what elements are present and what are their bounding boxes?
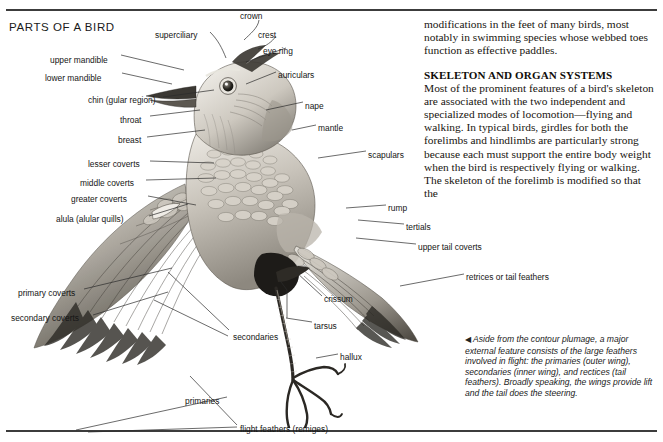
label-greater-coverts: greater coverts (71, 194, 127, 204)
label-middle-coverts: middle coverts (80, 178, 134, 188)
leg-and-foot (276, 288, 345, 428)
top-divider-rule (6, 9, 657, 11)
bottom-divider-rule (6, 430, 657, 432)
label-primaries: primaries (185, 396, 219, 406)
label-retrices: retrices or tail feathers (466, 272, 549, 282)
caption-text: Aside from the contour plumage, a major … (465, 334, 652, 398)
label-crest: crest (258, 30, 276, 40)
label-primary-coverts: primary coverts (18, 288, 75, 298)
label-lesser-coverts: lesser coverts (88, 159, 140, 169)
label-eye-ring: eye ring (263, 46, 293, 56)
label-chin: chin (gular region) (88, 95, 156, 105)
label-tertials: tertials (406, 222, 431, 232)
label-scapulars: scapulars (368, 150, 404, 160)
label-throat: throat (120, 115, 141, 125)
label-secondaries: secondaries (233, 332, 278, 342)
label-alula: alula (alular quills) (56, 214, 124, 224)
page-root: PARTS OF A BIRD (0, 0, 663, 442)
label-breast: breast (118, 135, 141, 145)
label-nape: nape (305, 101, 324, 111)
continued-paragraph: modifications in the feet of many birds,… (424, 18, 656, 58)
label-crissum: crissum (324, 294, 353, 304)
label-secondary-coverts: secondary coverts (11, 313, 79, 323)
label-mantle: mantle (318, 123, 343, 133)
label-auriculars: auriculars (278, 70, 314, 80)
label-lower-mandible: lower mandible (45, 73, 101, 83)
label-crown: crown (240, 11, 262, 21)
lower-mandible-shape (150, 99, 196, 107)
label-superciliary: superciliary (155, 30, 197, 40)
eye-shape (223, 81, 234, 92)
section-paragraph: Most of the prominent features of a bird… (424, 82, 656, 201)
label-hallux: hallux (340, 352, 362, 362)
label-flight-feathers: flight feathers (remiges) (240, 424, 328, 434)
label-rump: rump (388, 203, 407, 213)
article-column: modifications in the feet of many birds,… (424, 18, 656, 211)
section-heading: SKELETON AND ORGAN SYSTEMS (424, 69, 656, 81)
left-wing (34, 184, 211, 365)
label-upper-mandible: upper mandible (50, 55, 108, 65)
label-tarsus: tarsus (314, 321, 337, 331)
bird-diagram-panel: crownsuperciliarycresteye ringupper mand… (0, 14, 420, 428)
figure-caption: ◀ Aside from the contour plumage, a majo… (465, 334, 657, 399)
label-upper-tail-coverts: upper tail coverts (418, 242, 482, 252)
